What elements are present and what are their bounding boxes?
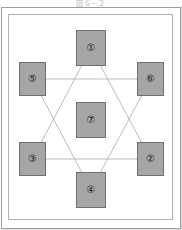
card-2-label: ② bbox=[146, 154, 155, 164]
card-4[interactable]: ④ bbox=[76, 172, 106, 208]
card-6[interactable]: ⑥ bbox=[137, 62, 164, 96]
figure-root: 図６－２ ①②③④⑤⑥⑦ bbox=[0, 0, 182, 230]
card-7-label: ⑦ bbox=[87, 115, 96, 125]
card-2[interactable]: ② bbox=[137, 142, 164, 176]
card-1-label: ① bbox=[87, 43, 96, 53]
card-7[interactable]: ⑦ bbox=[76, 102, 106, 138]
card-6-label: ⑥ bbox=[146, 74, 155, 84]
card-3[interactable]: ③ bbox=[19, 142, 46, 176]
card-4-label: ④ bbox=[87, 185, 96, 195]
card-5[interactable]: ⑤ bbox=[19, 62, 46, 96]
scan-edge-right bbox=[181, 6, 182, 229]
card-3-label: ③ bbox=[28, 154, 37, 164]
card-1[interactable]: ① bbox=[76, 30, 106, 66]
card-5-label: ⑤ bbox=[28, 74, 37, 84]
scan-edge-bottom bbox=[0, 229, 182, 230]
